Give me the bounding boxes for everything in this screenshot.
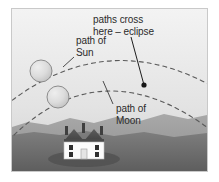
diagram-stage: paths cross here – eclipse path of Sun p…	[0, 0, 219, 182]
moon-disc	[47, 86, 69, 108]
label-path-of-sun: path of Sun	[76, 35, 106, 58]
label-path-of-sun-line2: Sun	[76, 47, 94, 58]
label-path-of-moon: path of Moon	[116, 103, 146, 126]
label-path-of-moon-line1: path of	[116, 103, 146, 114]
label-path-of-moon-line2: Moon	[116, 115, 141, 126]
chimney-left	[65, 126, 68, 135]
label-paths-cross: paths cross here – eclipse	[93, 14, 154, 37]
label-paths-cross-line1: paths cross	[93, 14, 143, 25]
chimney-right	[100, 126, 103, 135]
foreground-ground	[12, 131, 207, 171]
window-lower-right	[95, 152, 99, 157]
crossing-point-dot	[141, 82, 146, 87]
front-door	[81, 149, 87, 159]
chimney-center	[82, 123, 85, 133]
window-upper-left	[69, 145, 73, 150]
label-path-of-sun-line1: path of	[76, 35, 106, 46]
window-upper-right	[95, 145, 99, 150]
window-lower-left	[69, 152, 73, 157]
sun-disc	[30, 60, 52, 82]
illustration-frame: paths cross here – eclipse path of Sun p…	[11, 8, 208, 172]
